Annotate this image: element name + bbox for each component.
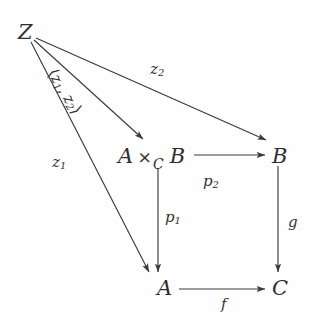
fiber-subscript-C: C [153,158,164,172]
edge-label-p2: p2 [203,174,219,190]
edge-label-z1-sub: 1 [60,160,66,171]
fiber-left-term: A [118,146,133,167]
edge-label-z2: z2 [150,62,164,78]
node-Z: Z [18,22,33,43]
edge-label-z1: z1 [52,155,66,171]
node-C: C [272,278,288,299]
edge-label-p2-base: p [203,172,213,190]
diagram-canvas: Z A×CB B A C z2 ⟨z1, z2⟩ z1 p2 p1 g f [0,0,316,330]
edge-label-f: f [221,297,227,312]
fiber-times-symbol: × [137,149,152,166]
edge-label-p2-sub: 2 [213,179,219,190]
node-A: A [157,278,172,299]
edge-label-z1-base: z [52,153,60,171]
edge-label-z2-sub: 2 [158,67,164,78]
edge-label-g: g [288,215,298,230]
edge-label-f-base: f [221,295,227,313]
node-B: B [272,146,288,167]
edge-label-g-base: g [288,213,298,231]
edge-label-p1-sub: 1 [175,215,181,226]
edge-label-z2-base: z [150,60,158,78]
fiber-right-term: B [170,146,186,167]
edge-label-p1-base: p [165,208,175,226]
arrow-pair [34,40,143,139]
edge-label-p1: p1 [165,210,181,226]
node-fiber-product: A×CB [118,146,185,167]
